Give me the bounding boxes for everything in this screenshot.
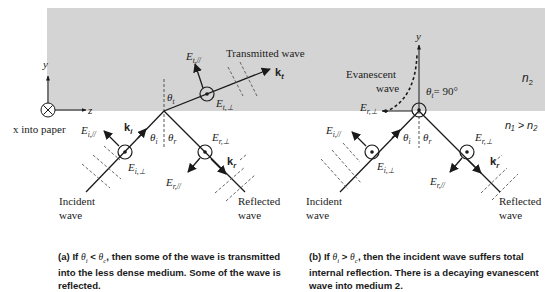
label-e-i-parallel: Ei,//: [80, 124, 97, 139]
y-axis-label: y: [42, 58, 48, 70]
label-e-r-perp: Er,⊥: [211, 131, 230, 146]
label-reflected-wave-b-line2: wave: [499, 209, 522, 221]
caption-b-prefix: (b) If: [309, 251, 332, 262]
label-e-i-perp-b: Ei,⊥: [376, 160, 395, 175]
label-transmitted-wave: Transmitted wave: [226, 47, 305, 59]
label-reflected-wave-line2: wave: [238, 209, 261, 221]
tir-diagram: y z x into paper: [0, 0, 545, 292]
label-incident-wave-b-line1: Incident: [306, 195, 342, 207]
caption-a: (a) If θi < θc, then some of the wave is…: [58, 251, 298, 292]
label-n1-greater-n2: n₁ > n₂: [505, 119, 538, 131]
label-e-r-parallel: Er,//: [165, 176, 182, 191]
label-k-r-b: kr: [490, 155, 500, 170]
label-incident-wave-line1: Incident: [59, 195, 95, 207]
label-theta-r-b: θr: [423, 131, 431, 146]
label-k-r: kr: [227, 155, 237, 170]
label-k-i: ki: [124, 121, 133, 136]
x-into-paper-label: x into paper: [13, 123, 66, 135]
label-incident-wave-line2: wave: [59, 209, 82, 221]
label-e-r-perp-b: Er,⊥: [474, 131, 493, 146]
label-reflected-wave-b-line1: Reflected: [499, 195, 542, 207]
medium-2-region: [47, 8, 545, 111]
label-e-i-perp: Ei,⊥: [127, 161, 146, 176]
label-evanescent-line2: wave: [376, 82, 399, 94]
label-theta-i-b: θi: [403, 131, 411, 146]
label-theta-i: θi: [150, 131, 158, 146]
label-y-b: y: [415, 30, 421, 42]
z-axis-label: z: [87, 104, 93, 116]
label-evanescent-line1: Evanescent: [346, 68, 396, 80]
label-e-i-parallel-b: Ei,//: [325, 124, 342, 139]
caption-b-operator: >: [339, 251, 350, 262]
label-incident-wave-b-line2: wave: [306, 209, 329, 221]
label-theta-r: θr: [168, 131, 176, 146]
label-e-r-parallel-b: Er,//: [429, 175, 446, 190]
caption-a-prefix: (a) If: [58, 251, 81, 262]
caption-b: (b) If θi > θc, then the incident wave s…: [309, 251, 545, 292]
caption-a-operator: <: [88, 251, 99, 262]
label-reflected-wave-line1: Reflected: [238, 195, 281, 207]
